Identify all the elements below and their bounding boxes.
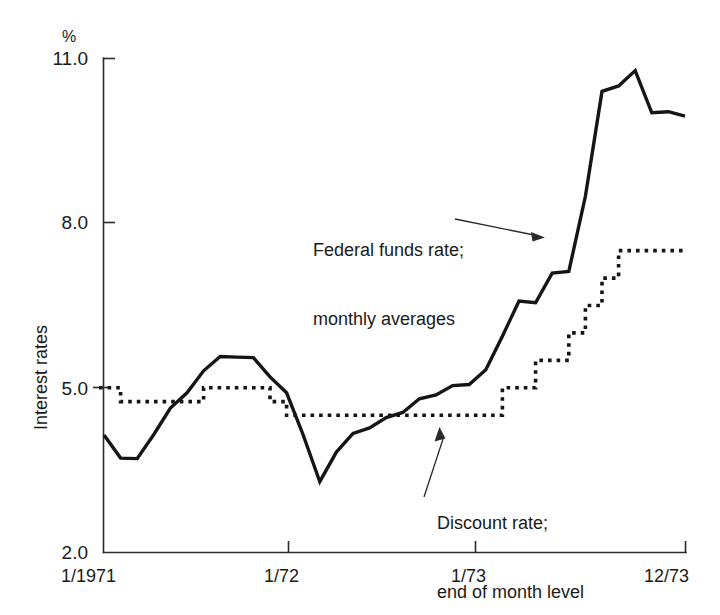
- y-tick-label-8: 8.0: [34, 211, 88, 235]
- discount-rate-annotation-arrow-head: [435, 427, 446, 442]
- interest-rates-chart: % Interest rates 11.0 8.0 5.0 2.0 1/1971…: [0, 0, 720, 615]
- federal-funds-annotation-line1: Federal funds rate;: [313, 239, 464, 262]
- federal-funds-annotation: Federal funds rate; monthly averages: [313, 193, 464, 377]
- x-tick-label-12-73: 12/73: [644, 565, 689, 588]
- y-tick-label-5: 5.0: [34, 377, 88, 401]
- y-tick-label-11: 11.0: [34, 47, 88, 71]
- y-axis-unit-label: %: [62, 27, 76, 47]
- x-tick-label-1-72: 1/72: [264, 565, 299, 588]
- discount-rate-annotation: Discount rate; end of month level: [437, 466, 584, 615]
- federal-funds-annotation-arrow-line: [455, 219, 534, 235]
- discount-rate-annotation-line1: Discount rate;: [437, 512, 584, 535]
- discount-rate-annotation-line2: end of month level: [437, 581, 584, 604]
- x-tick-label-1-1971: 1/1971: [61, 565, 116, 588]
- y-tick-label-2: 2.0: [34, 541, 88, 565]
- federal-funds-annotation-arrow-head: [531, 232, 545, 242]
- federal-funds-annotation-line2: monthly averages: [313, 308, 464, 331]
